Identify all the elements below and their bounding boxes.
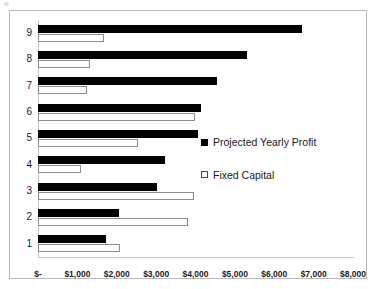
chart-legend: Projected Yearly Profit Fixed Capital [201,137,316,202]
bar-capital-7 [38,86,87,94]
category-label-9: 9 [26,28,32,38]
bar-chart-figure: 123456789 $-$1,000$2,000$3,000$4,000$5,0… [0,0,376,289]
x-tick-1: $1,000 [64,270,90,279]
legend-item-capital: Fixed Capital [201,170,316,181]
legend-swatch-capital [201,171,208,178]
category-label-7: 7 [26,81,32,91]
x-tick-8: $8,000 [340,270,366,279]
legend-label-capital: Fixed Capital [213,170,274,181]
bar-profit-2 [38,209,119,217]
legend-swatch-profit [201,139,208,146]
bar-capital-6 [38,113,195,121]
bar-profit-8 [38,51,247,59]
category-label-6: 6 [26,107,32,117]
category-axis-line [38,257,354,258]
bar-capital-3 [38,192,194,200]
category-group-1: 1 [38,231,353,257]
category-group-8: 8 [38,46,353,72]
category-label-8: 8 [26,54,32,64]
x-tick-0: $- [34,270,42,279]
category-group-9: 9 [38,20,353,46]
x-tick-7: $7,000 [301,270,327,279]
bar-capital-4 [38,165,81,173]
legend-label-profit: Projected Yearly Profit [213,137,316,148]
x-tick-5: $5,000 [222,270,248,279]
x-tick-2: $2,000 [104,270,130,279]
bar-profit-1 [38,235,106,243]
bar-profit-4 [38,156,165,164]
bar-capital-1 [38,244,120,252]
category-label-3: 3 [26,186,32,196]
bar-capital-2 [38,218,188,226]
category-group-7: 7 [38,73,353,99]
scan-artifact-speck [4,2,9,6]
legend-item-profit: Projected Yearly Profit [201,137,316,148]
x-tick-3: $3,000 [143,270,169,279]
x-tick-6: $6,000 [261,270,287,279]
bar-capital-9 [38,34,104,42]
bar-profit-9 [38,25,302,33]
bar-capital-8 [38,60,90,68]
bar-profit-3 [38,183,157,191]
chart-frame: 123456789 $-$1,000$2,000$3,000$4,000$5,0… [9,10,367,279]
category-label-2: 2 [26,212,32,222]
category-group-2: 2 [38,204,353,230]
x-tick-4: $4,000 [183,270,209,279]
category-label-5: 5 [26,133,32,143]
bar-capital-5 [38,139,138,147]
bar-profit-6 [38,104,201,112]
category-label-1: 1 [26,239,32,249]
category-group-6: 6 [38,99,353,125]
category-label-4: 4 [26,160,32,170]
bar-profit-7 [38,77,217,85]
bar-profit-5 [38,130,198,138]
